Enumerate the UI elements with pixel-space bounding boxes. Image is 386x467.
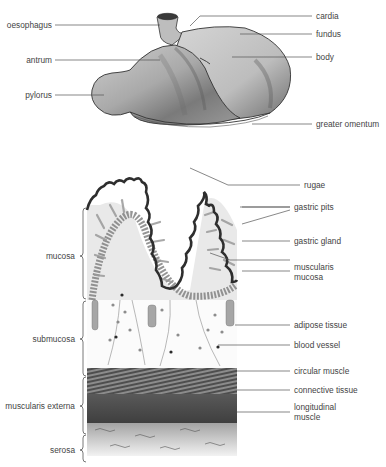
label-connective-tissue: connective tissue: [294, 385, 358, 395]
label-body: body: [316, 52, 334, 62]
label-serosa: serosa: [50, 445, 75, 455]
label-circular-muscle: circular muscle: [294, 366, 349, 376]
label-cardia: cardia: [316, 11, 339, 21]
label-antrum: antrum: [26, 55, 52, 65]
label-greater-omentum: greater omentum: [316, 119, 379, 129]
label-longitudinal-muscle: longitudinal muscle: [294, 402, 356, 422]
label-fundus: fundus: [316, 29, 341, 39]
layer-braces: [80, 208, 86, 462]
label-gastric-gland: gastric gland: [294, 236, 341, 246]
label-muscularis-externa: muscularis externa: [5, 401, 75, 411]
label-blood-vessel: blood vessel: [294, 340, 340, 350]
label-gastric-pits: gastric pits: [294, 202, 334, 212]
stomach-illustration: [0, 0, 386, 467]
label-pylorus: pylorus: [25, 90, 52, 100]
label-rugae: rugae: [304, 180, 325, 190]
gastric-wall-section: [87, 178, 237, 456]
label-submucosa: submucosa: [33, 334, 75, 344]
label-adipose-tissue: adipose tissue: [294, 320, 347, 330]
label-oesophagus: oesophagus: [7, 20, 52, 30]
label-muscularis-mucosa: muscularis mucosa: [294, 262, 354, 282]
label-mucosa: mucosa: [46, 251, 75, 261]
stomach-exterior: [92, 13, 291, 127]
